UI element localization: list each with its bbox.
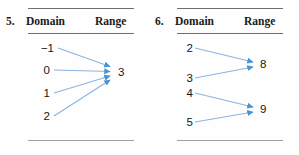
domain-value: −1 [10,42,54,54]
domain-value: 2 [10,110,50,122]
problem-6: 6. Domain Range 2 3 4 5 8 [149,0,299,155]
range-value: 9 [260,103,266,115]
arrow-neg1-to-3 [58,48,110,67]
arrow-2-to-3 [54,80,110,116]
domain-value: 5 [155,116,193,128]
domain-value: 4 [155,87,193,99]
domain-value: 2 [155,42,193,54]
arrow-4-to-9 [195,93,253,107]
mapping-arrows [0,0,150,155]
mapping-diagram: −1 0 1 2 3 [0,0,150,155]
arrow-1-to-3 [54,76,110,93]
range-value: 3 [118,66,124,78]
arrow-0-to-3 [54,70,110,72]
arrow-3-to-8 [195,67,253,78]
domain-value: 0 [10,64,50,76]
domain-value: 3 [155,72,193,84]
arrow-2-to-8 [195,48,253,62]
worksheet-page: 5. Domain Range −1 0 1 2 [0,0,299,155]
domain-value: 1 [10,87,50,99]
problem-5: 5. Domain Range −1 0 1 2 [0,0,150,155]
mapping-diagram: 2 3 4 5 8 9 [149,0,299,155]
range-value: 8 [260,58,266,70]
arrow-5-to-9 [195,112,253,122]
